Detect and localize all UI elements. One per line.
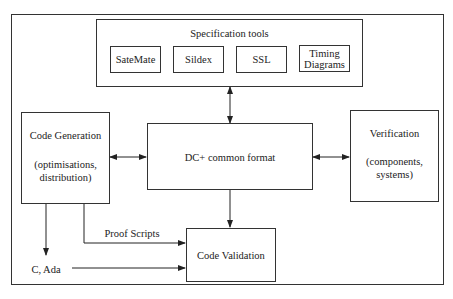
verification-detail-1: (components,	[350, 155, 439, 168]
code-generation-detail-2: distribution)	[21, 171, 110, 184]
tool-satemate-label: SateMate	[116, 54, 156, 65]
tool-sildex-label: Sildex	[185, 54, 212, 65]
tool-timing-label-1: Timing	[309, 48, 340, 59]
proof-scripts-label: Proof Scripts	[100, 227, 164, 240]
tool-timing-diagrams: Timing Diagrams	[299, 45, 350, 72]
c-ada-label: C, Ada	[26, 263, 66, 276]
tool-timing-label-2: Diagrams	[304, 59, 345, 70]
verification-detail-2: systems)	[350, 168, 439, 181]
dc-common-format-title: DC+ common format	[147, 151, 313, 164]
tool-satemate: SateMate	[110, 46, 161, 73]
tool-ssl: SSL	[236, 46, 287, 73]
code-generation-detail-1: (optimisations,	[21, 158, 110, 171]
code-generation-title: Code Generation	[21, 129, 110, 142]
code-validation-title: Code Validation	[186, 249, 276, 262]
spec-tools-title: Specification tools	[96, 27, 363, 40]
verification-title: Verification	[350, 127, 439, 140]
tool-ssl-label: SSL	[252, 54, 270, 65]
tool-sildex: Sildex	[173, 46, 224, 73]
